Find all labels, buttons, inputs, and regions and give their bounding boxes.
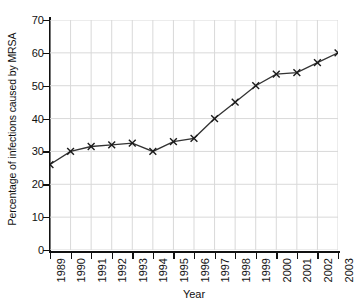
y-tick-mark bbox=[43, 217, 50, 218]
x-tick-label: 2001 bbox=[301, 258, 313, 282]
y-tick-mark bbox=[43, 151, 50, 152]
y-tick-mark bbox=[43, 250, 50, 251]
x-axis-title: Year bbox=[50, 288, 338, 300]
x-tick-label: 1992 bbox=[116, 258, 128, 282]
y-tick-mark bbox=[43, 53, 50, 54]
x-tick-mark bbox=[173, 252, 174, 259]
x-tick-mark bbox=[338, 252, 339, 259]
x-tick-mark bbox=[153, 252, 154, 259]
y-tick-mark bbox=[43, 184, 50, 185]
x-tick-label: 2002 bbox=[322, 258, 334, 282]
x-tick-label: 1998 bbox=[240, 258, 252, 282]
x-tick-label: 1996 bbox=[199, 258, 211, 282]
x-tick-mark bbox=[256, 252, 257, 259]
y-axis-tick-labels: 010203040506070 bbox=[22, 0, 44, 258]
x-tick-mark bbox=[112, 252, 113, 259]
x-tick-label: 1995 bbox=[178, 258, 190, 282]
data-point-marker bbox=[50, 161, 53, 168]
plot-svg bbox=[50, 20, 338, 250]
x-tick-mark bbox=[194, 252, 195, 259]
x-tick-label: 1997 bbox=[219, 258, 231, 282]
plot-area bbox=[50, 20, 338, 250]
y-tick-mark bbox=[43, 86, 50, 87]
x-tick-label: 1994 bbox=[157, 258, 169, 282]
x-tick-mark bbox=[276, 252, 277, 259]
x-tick-label: 1989 bbox=[55, 258, 67, 282]
x-tick-mark bbox=[132, 252, 133, 259]
y-tick-mark bbox=[43, 20, 50, 21]
x-tick-mark bbox=[317, 252, 318, 259]
y-axis-title: Percentage of infections caused by MRSA bbox=[0, 0, 24, 258]
x-tick-label: 1990 bbox=[75, 258, 87, 282]
x-tick-label: 1993 bbox=[137, 258, 149, 282]
y-tick-mark bbox=[43, 119, 50, 120]
x-axis-tick-labels: 1989199019911992199319941995199619971998… bbox=[0, 258, 346, 292]
x-tick-label: 2003 bbox=[343, 258, 355, 282]
x-tick-label: 1999 bbox=[260, 258, 272, 282]
x-tick-label: 1991 bbox=[96, 258, 108, 282]
x-tick-mark bbox=[91, 252, 92, 259]
x-tick-mark bbox=[50, 252, 51, 259]
x-tick-mark bbox=[71, 252, 72, 259]
y-axis-title-text: Percentage of infections caused by MRSA bbox=[6, 33, 18, 226]
x-tick-label: 2000 bbox=[281, 258, 293, 282]
grid-lines bbox=[50, 20, 338, 250]
x-tick-mark bbox=[297, 252, 298, 259]
x-tick-mark bbox=[235, 252, 236, 259]
x-tick-mark bbox=[215, 252, 216, 259]
